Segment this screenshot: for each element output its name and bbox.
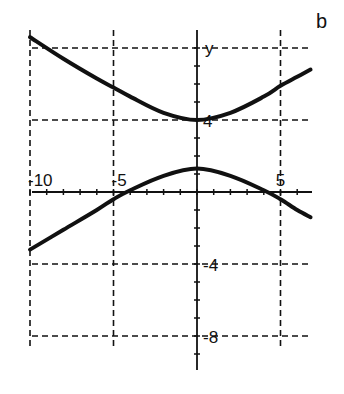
hyperbola-chart: -10-554-4-8y [0, 0, 344, 394]
y-tick-label: -8 [203, 328, 218, 347]
x-tick-label: -5 [112, 171, 127, 190]
curve-lower-branch [30, 169, 311, 250]
x-tick-label: -10 [28, 171, 53, 190]
x-tick-label: 5 [276, 171, 285, 190]
curve-upper-branch [30, 37, 311, 120]
y-tick-label: -4 [203, 256, 218, 275]
y-axis-label: y [205, 39, 214, 58]
